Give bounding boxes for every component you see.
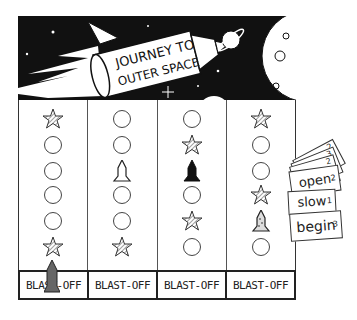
- circle-space-icon[interactable]: [42, 160, 64, 182]
- circle-space-icon[interactable]: [250, 134, 272, 156]
- star-space-icon[interactable]: [42, 236, 64, 258]
- board-columns: [18, 100, 296, 270]
- star-space-icon[interactable]: [181, 210, 203, 232]
- star-space-icon[interactable]: [250, 108, 272, 130]
- circle-space-icon[interactable]: [111, 184, 133, 206]
- circle-space-icon[interactable]: [111, 108, 133, 130]
- word-card-stack: 2 3 2 open2 slow1 begin3: [282, 148, 354, 238]
- circle-space-icon[interactable]: [250, 160, 272, 182]
- star-space-icon[interactable]: [111, 236, 133, 258]
- circle-space-icon[interactable]: [181, 236, 203, 258]
- circle-space-icon[interactable]: [42, 184, 64, 206]
- rocket-token-icon[interactable]: [250, 210, 272, 232]
- circle-space-icon[interactable]: [111, 134, 133, 156]
- rocket-token-icon[interactable]: [181, 160, 203, 182]
- column-1: [19, 100, 88, 270]
- circle-space-icon[interactable]: [42, 210, 64, 232]
- rocket-illustration: JOURNEY TO OUTER SPACE: [18, 16, 296, 100]
- rocket-token-icon: [44, 260, 60, 294]
- space-banner: JOURNEY TO OUTER SPACE: [18, 16, 296, 100]
- blast-off-row: BLAST-OFF BLAST-OFF BLAST-OFF BLAST-OFF: [18, 270, 296, 300]
- circle-space-icon[interactable]: [181, 108, 203, 130]
- circle-space-icon[interactable]: [181, 184, 203, 206]
- circle-space-icon[interactable]: [250, 236, 272, 258]
- word-card-begin[interactable]: begin3: [289, 210, 343, 242]
- circle-space-icon[interactable]: [42, 134, 64, 156]
- rocket-token-icon[interactable]: [111, 160, 133, 182]
- game-board: JOURNEY TO OUTER SPACE BLAST-OFF: [18, 16, 296, 300]
- star-space-icon[interactable]: [42, 108, 64, 130]
- blast-off-label-2[interactable]: BLAST-OFF: [89, 272, 158, 298]
- circle-space-icon[interactable]: [111, 210, 133, 232]
- column-3: [158, 100, 227, 270]
- blast-off-label-1[interactable]: BLAST-OFF: [20, 272, 89, 298]
- column-2: [88, 100, 157, 270]
- star-space-icon[interactable]: [250, 184, 272, 206]
- blast-off-label-4[interactable]: BLAST-OFF: [227, 272, 294, 298]
- star-space-icon[interactable]: [181, 134, 203, 156]
- blast-off-label-3[interactable]: BLAST-OFF: [158, 272, 227, 298]
